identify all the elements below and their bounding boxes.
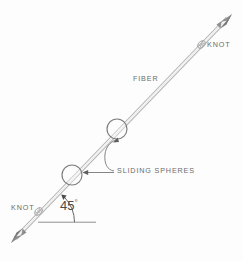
knot-mark-top-icon [196,39,207,50]
leader-line-lower-sphere [82,170,114,175]
fiber-diagram: KNOT FIBER SLIDING SPHERES KNOT 45° [0,0,243,261]
knot-top-label: KNOT [207,41,230,48]
sphere-upper [107,119,127,139]
sliding-spheres-label: SLIDING SPHERES [117,167,195,174]
sphere-lower [62,165,82,185]
arrowhead-bottom-icon [11,229,27,244]
angle-label: 45° [60,199,78,212]
knot-bottom-label: KNOT [11,204,34,211]
degree-symbol: ° [74,198,77,207]
fiber-label: FIBER [133,75,158,82]
angle-value: 45 [60,198,74,213]
